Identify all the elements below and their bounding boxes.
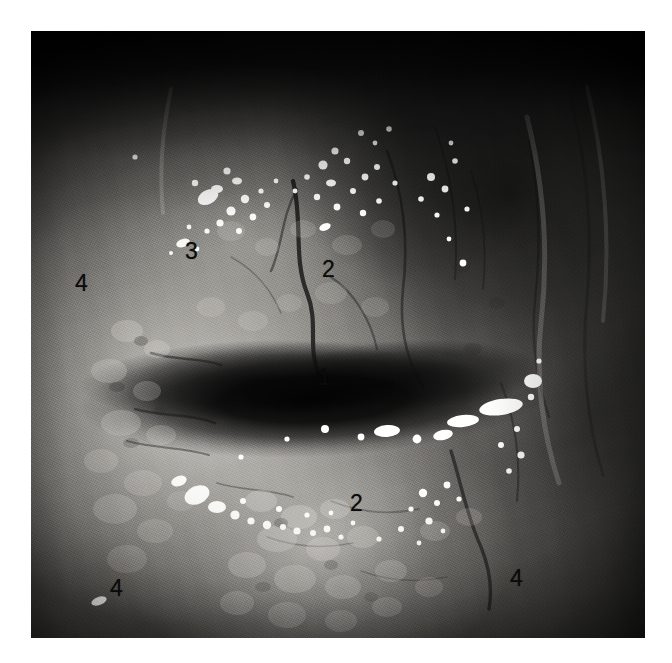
film-grain-fine-layer: [31, 31, 645, 638]
annotation-label-2-lower: 2: [350, 492, 363, 515]
page-canvas: 3 2 4 1 2 4 4: [0, 0, 672, 663]
annotation-label-4-bottom-left: 4: [110, 577, 123, 600]
annotation-label-1: 1: [318, 366, 331, 389]
annotation-label-4-left: 4: [75, 272, 88, 295]
annotation-label-2-upper: 2: [322, 258, 335, 281]
annotation-label-4-bottom-right: 4: [510, 567, 523, 590]
clinical-photograph: [31, 31, 645, 638]
annotation-label-3: 3: [185, 240, 198, 263]
